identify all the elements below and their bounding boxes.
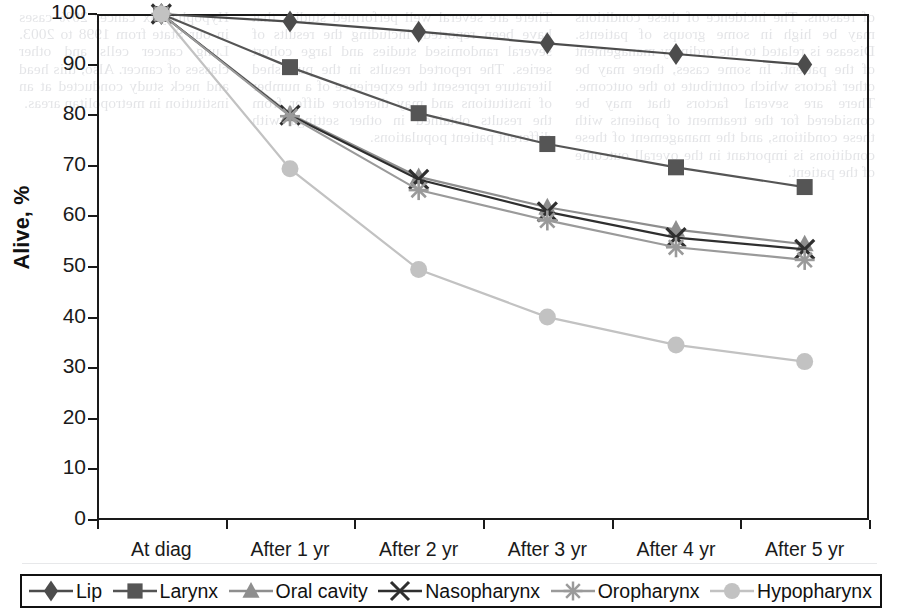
cross-x-icon bbox=[377, 579, 423, 603]
legend-item-label: Hypopharynx bbox=[757, 580, 874, 603]
y-axis-tick-mark bbox=[88, 114, 97, 116]
x-axis-tick-label: After 2 yr bbox=[354, 538, 483, 561]
y-axis-tick-label: 60 bbox=[38, 202, 86, 226]
legend-item-nasopharynx[interactable]: Nasopharynx bbox=[377, 579, 542, 603]
series-hypopharynx bbox=[153, 6, 813, 371]
series-larynx bbox=[153, 6, 812, 195]
marker-circle bbox=[724, 583, 740, 599]
marker-diamond bbox=[797, 54, 812, 76]
marker-square bbox=[411, 105, 427, 121]
marker-diamond bbox=[283, 11, 298, 33]
legend-item-hypopharynx[interactable]: Hypopharynx bbox=[709, 579, 874, 603]
marker-circle bbox=[153, 6, 170, 23]
y-axis-tick-mark bbox=[88, 215, 97, 217]
y-axis-tick-label: 40 bbox=[38, 304, 86, 328]
square-icon bbox=[112, 579, 158, 603]
marker-circle bbox=[668, 336, 685, 353]
series-line bbox=[161, 14, 804, 187]
survival-chart-figure: of reasons. The incidence of these condi… bbox=[0, 0, 897, 611]
marker-circle bbox=[282, 160, 299, 177]
y-axis-tick-label: 10 bbox=[38, 455, 86, 479]
series-oropharynx bbox=[151, 4, 814, 270]
y-axis-ticks: 1009080706050403020100 bbox=[30, 0, 86, 540]
y-axis-tick-label: 50 bbox=[38, 253, 86, 277]
marker-asterisk bbox=[280, 106, 300, 126]
x-axis-tick-label: After 5 yr bbox=[740, 538, 869, 561]
y-axis-tick-mark bbox=[88, 165, 97, 167]
marker-diamond bbox=[44, 581, 58, 602]
series-nasopharynx bbox=[152, 5, 814, 259]
circle-icon bbox=[709, 579, 755, 603]
marker-square bbox=[282, 59, 298, 75]
legend-item-label: Oral cavity bbox=[276, 580, 370, 603]
y-axis-title: Alive, % bbox=[10, 168, 35, 288]
y-axis-tick-mark bbox=[88, 13, 97, 15]
legend-item-label: Larynx bbox=[160, 580, 221, 603]
diamond-icon bbox=[28, 579, 74, 603]
y-axis-tick-label: 90 bbox=[38, 51, 86, 75]
x-axis-tick-mark bbox=[97, 520, 99, 529]
marker-asterisk bbox=[409, 180, 429, 200]
marker-circle bbox=[410, 261, 427, 278]
asterisk-icon bbox=[550, 579, 596, 603]
x-axis-tick-label: After 4 yr bbox=[612, 538, 741, 561]
triangle-icon bbox=[228, 579, 274, 603]
x-axis-tick-mark bbox=[354, 520, 356, 529]
marker-asterisk bbox=[795, 250, 815, 270]
x-axis-tick-mark bbox=[612, 520, 614, 529]
y-axis-tick-mark bbox=[88, 519, 97, 521]
marker-diamond bbox=[411, 21, 426, 43]
legend-item-label: Oropharynx bbox=[598, 580, 702, 603]
y-axis-tick-mark bbox=[88, 468, 97, 470]
x-axis-tick-mark bbox=[869, 520, 871, 529]
legend-item-oropharynx[interactable]: Oropharynx bbox=[550, 579, 702, 603]
y-axis-tick-label: 0 bbox=[38, 506, 86, 530]
series-line bbox=[161, 14, 804, 362]
marker-circle bbox=[796, 353, 813, 370]
legend-item-larynx[interactable]: Larynx bbox=[112, 579, 221, 603]
marker-square bbox=[539, 136, 555, 152]
x-axis-ticks: At diagAfter 1 yrAfter 2 yrAfter 3 yrAft… bbox=[97, 520, 869, 554]
marker-asterisk bbox=[666, 237, 686, 257]
series-lip bbox=[154, 3, 812, 76]
x-axis-tick-mark bbox=[226, 520, 228, 529]
legend-item-oral-cavity[interactable]: Oral cavity bbox=[228, 579, 370, 603]
marker-square bbox=[127, 583, 142, 598]
x-axis-tick-label: At diag bbox=[97, 538, 226, 561]
legend-item-label: Lip bbox=[76, 580, 104, 603]
y-axis-tick-label: 80 bbox=[38, 101, 86, 125]
legend-item-lip[interactable]: Lip bbox=[28, 579, 104, 603]
marker-square bbox=[668, 159, 684, 175]
x-axis-tick-mark bbox=[483, 520, 485, 529]
x-axis-tick-label: After 1 yr bbox=[226, 538, 355, 561]
y-axis-tick-label: 100 bbox=[38, 0, 86, 24]
marker-asterisk bbox=[563, 582, 582, 601]
y-axis-tick-mark bbox=[88, 317, 97, 319]
series-line bbox=[161, 14, 804, 65]
marker-square bbox=[797, 179, 813, 195]
y-axis-tick-mark bbox=[88, 367, 97, 369]
x-axis-tick-label: After 3 yr bbox=[483, 538, 612, 561]
marker-diamond bbox=[669, 43, 684, 65]
y-axis-tick-label: 70 bbox=[38, 152, 86, 176]
y-axis-tick-label: 30 bbox=[38, 354, 86, 378]
y-axis-tick-mark bbox=[88, 64, 97, 66]
y-axis-tick-mark bbox=[88, 418, 97, 420]
chart-legend: LipLarynxOral cavityNasopharynxOropharyn… bbox=[20, 574, 882, 608]
y-axis-tick-mark bbox=[88, 266, 97, 268]
x-axis-tick-mark bbox=[740, 520, 742, 529]
marker-circle bbox=[539, 309, 556, 326]
marker-asterisk bbox=[537, 210, 557, 230]
legend-item-label: Nasopharynx bbox=[425, 580, 542, 603]
y-axis-tick-label: 20 bbox=[38, 405, 86, 429]
marker-diamond bbox=[540, 32, 555, 54]
series-line bbox=[161, 14, 804, 260]
